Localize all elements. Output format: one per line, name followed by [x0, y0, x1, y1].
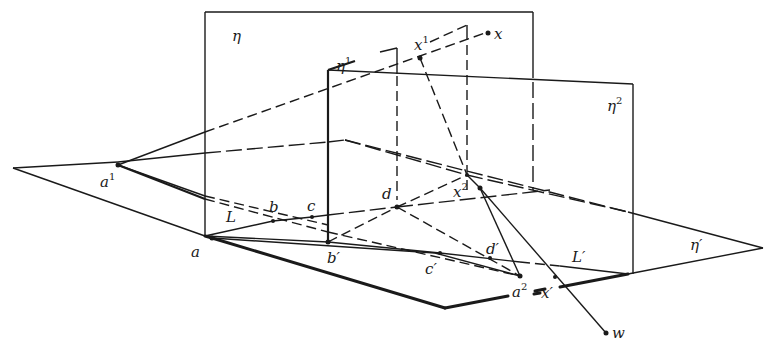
point-x2-top [465, 173, 469, 177]
point-x2 [478, 186, 483, 191]
label-x2: x2 [453, 181, 468, 201]
projection-diagram: η η1 x1 x η2 a1 L b c d x2 a b′ c′ d′ L′… [0, 0, 781, 359]
point-b-prime [326, 240, 331, 245]
label-b: b [269, 198, 279, 216]
label-c-prime: c′ [425, 260, 437, 278]
label-c: c [307, 197, 316, 215]
a2-x-prime-connector [534, 293, 540, 294]
label-d-prime: d′ [486, 240, 500, 258]
point-w [604, 331, 609, 336]
label-eta2: η2 [607, 95, 622, 115]
label-L-prime: L′ [571, 248, 586, 266]
point-x-prime [553, 275, 557, 279]
point-c-prime [438, 251, 442, 255]
label-x1: x1 [414, 34, 429, 54]
rays-from-a1 [118, 33, 520, 276]
label-x-prime: x′ [541, 284, 553, 302]
construction-lines [212, 58, 628, 333]
point-x1 [418, 56, 423, 61]
point-d [395, 205, 400, 210]
label-L: L [225, 208, 236, 226]
label-eta1: η1 [336, 55, 351, 75]
point-a [210, 236, 215, 241]
label-b-prime: b′ [327, 249, 341, 267]
point-a2 [518, 274, 523, 279]
point-b [271, 219, 275, 223]
label-eta-prime: η′ [690, 236, 703, 254]
label-x: x [494, 25, 503, 43]
point-c [310, 215, 314, 219]
ground-plane-eta-prime [13, 140, 763, 308]
label-eta: η [232, 27, 241, 45]
point-x [486, 31, 491, 36]
point-a1 [116, 163, 121, 168]
diagram-canvas: η η1 x1 x η2 a1 L b c d x2 a b′ c′ d′ L′… [0, 0, 781, 359]
plane-eta2 [328, 70, 633, 274]
label-a1: a1 [100, 171, 115, 191]
plane-eta [205, 12, 533, 236]
plane-eta1 [328, 25, 467, 200]
label-d: d [382, 185, 392, 203]
label-w: w [612, 324, 625, 342]
label-a: a [191, 243, 200, 261]
label-a2: a2 [512, 281, 527, 301]
